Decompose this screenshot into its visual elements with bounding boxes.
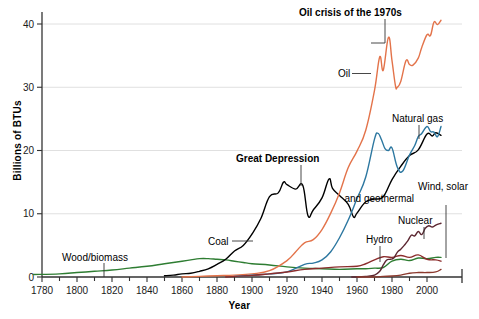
x-tick-label: 1880 [206, 285, 229, 296]
leader-line-7 [371, 19, 385, 43]
x-axis-ticks: 1780180018201840186018801900192019401960… [31, 277, 439, 296]
y-axis-title: Billions of BTUs [12, 91, 23, 191]
annotation-oil-crisis: Oil crisis of the 1970s [299, 7, 402, 18]
series-label-natural-gas: Natural gas [392, 113, 443, 124]
x-tick-label: 1940 [311, 285, 334, 296]
axes [42, 12, 462, 283]
chart-canvas: 1780180018201840186018801900192019401960… [0, 0, 479, 319]
energy-consumption-chart: 1780180018201840186018801900192019401960… [0, 0, 479, 319]
x-tick-label: 1900 [241, 285, 264, 296]
series-label-coal: Coal [208, 236, 229, 247]
y-tick-label: 30 [23, 82, 35, 93]
x-tick-label: 1840 [136, 285, 159, 296]
x-tick-label: 1800 [66, 285, 89, 296]
x-tick-label: 1920 [276, 285, 299, 296]
y-tick-label: 0 [28, 272, 34, 283]
series-label-hydro: Hydro [366, 234, 393, 245]
x-tick-label: 1980 [381, 285, 404, 296]
series-label-wind-solar-line2: and geothermal [345, 193, 415, 204]
x-tick-label: 1860 [171, 285, 194, 296]
x-tick-label: 2000 [416, 285, 439, 296]
y-tick-label: 10 [23, 208, 35, 219]
x-axis-title: Year [0, 300, 479, 311]
leader-lines [104, 19, 446, 277]
series-label-wood-biomass: Wood/biomass [62, 252, 128, 263]
x-tick-label: 1780 [31, 285, 54, 296]
y-tick-label: 40 [23, 19, 35, 30]
series-label-nuclear: Nuclear [398, 215, 433, 226]
y-tick-label: 20 [23, 145, 35, 156]
annotation-great-depression: Great Depression [236, 153, 319, 164]
series-label-oil: Oil [338, 68, 350, 79]
series-label-wind-solar-line1: Wind, solar [418, 181, 469, 192]
x-tick-label: 1960 [346, 285, 369, 296]
y-axis-ticks: 010203040 [23, 19, 42, 283]
x-tick-label: 1820 [101, 285, 124, 296]
